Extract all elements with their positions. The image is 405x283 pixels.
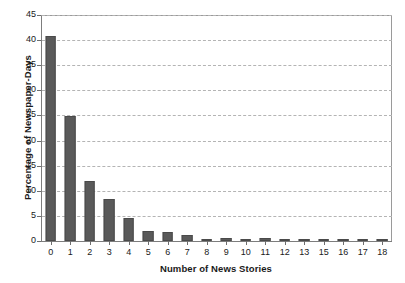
- x-tick-mark: [109, 241, 110, 245]
- y-tick-label-text: 20: [14, 135, 36, 145]
- x-tick-label: 4: [119, 247, 139, 257]
- bar: [143, 231, 154, 241]
- y-tick-label: 35: [14, 59, 36, 71]
- x-axis-line: [41, 241, 392, 242]
- x-tick-mark: [246, 241, 247, 245]
- bar-slot: [41, 15, 61, 241]
- x-tick-label: 2: [80, 247, 100, 257]
- bar-slot: [178, 15, 198, 241]
- x-tick-mark: [324, 241, 325, 245]
- bar-slot: [158, 15, 178, 241]
- bar-slot: [100, 15, 120, 241]
- y-tick-label: 45: [14, 9, 36, 21]
- x-tick-label: 8: [197, 247, 217, 257]
- x-tick-mark: [168, 241, 169, 245]
- x-tick-label: 18: [373, 247, 393, 257]
- x-tick-mark: [70, 241, 71, 245]
- x-tick-mark: [304, 241, 305, 245]
- y-axis-title: Percentage of Newspaper-Days: [22, 13, 33, 243]
- bar: [84, 181, 95, 241]
- x-tick-mark: [363, 241, 364, 245]
- bar-slot: [139, 15, 159, 241]
- bar: [65, 116, 76, 241]
- x-tick-label: 13: [295, 247, 315, 257]
- x-tick-mark: [207, 241, 208, 245]
- y-tick-label-text: 45: [14, 9, 36, 19]
- y-tick-label: 40: [14, 34, 36, 46]
- x-tick-label: 17: [353, 247, 373, 257]
- y-tick-label-text: 30: [14, 84, 36, 94]
- y-tick-label-text: 15: [14, 160, 36, 170]
- x-tick-label: 1: [61, 247, 81, 257]
- bar: [45, 36, 56, 241]
- x-tick-mark: [187, 241, 188, 245]
- bars-series: [41, 15, 392, 241]
- x-tick-mark: [382, 241, 383, 245]
- bar: [104, 199, 115, 241]
- x-tick-label: 0: [41, 247, 61, 257]
- x-tick-mark: [226, 241, 227, 245]
- x-tick-label: 16: [334, 247, 354, 257]
- x-tick-mark: [265, 241, 266, 245]
- y-tick-label: 15: [14, 160, 36, 172]
- y-tick-label: 20: [14, 135, 36, 147]
- x-tick-mark: [285, 241, 286, 245]
- bar-slot: [119, 15, 139, 241]
- y-tick-mark: [37, 241, 41, 242]
- x-tick-label: 3: [100, 247, 120, 257]
- x-tick-label: 12: [275, 247, 295, 257]
- bar-slot: [80, 15, 100, 241]
- bar-slot: [334, 15, 354, 241]
- y-tick-label-text: 10: [14, 185, 36, 195]
- bar-slot: [256, 15, 276, 241]
- x-tick-label: 5: [139, 247, 159, 257]
- y-tick-label: 30: [14, 84, 36, 96]
- x-axis-title: Number of News Stories: [40, 263, 392, 274]
- x-tick-mark: [129, 241, 130, 245]
- y-tick-label: 10: [14, 185, 36, 197]
- bar-slot: [353, 15, 373, 241]
- bar-chart: Percentage of Newspaper-Days 05101520253…: [0, 0, 405, 283]
- bar-slot: [373, 15, 393, 241]
- x-tick-mark: [51, 241, 52, 245]
- bar-slot: [295, 15, 315, 241]
- bar-slot: [217, 15, 237, 241]
- bar-slot: [236, 15, 256, 241]
- y-tick-label-text: 0: [14, 235, 36, 245]
- y-tick-label-text: 5: [14, 210, 36, 220]
- x-tick-label: 15: [314, 247, 334, 257]
- x-tick-mark: [148, 241, 149, 245]
- x-tick-label: 6: [158, 247, 178, 257]
- bar: [123, 218, 134, 241]
- bar-slot: [197, 15, 217, 241]
- y-tick-label: 25: [14, 109, 36, 121]
- x-tick-mark: [343, 241, 344, 245]
- x-tick-label: 7: [178, 247, 198, 257]
- bar: [162, 232, 173, 241]
- y-tick-label-text: 40: [14, 34, 36, 44]
- y-tick-label: 5: [14, 210, 36, 222]
- x-tick-label: 10: [236, 247, 256, 257]
- x-tick-mark: [90, 241, 91, 245]
- bar-slot: [314, 15, 334, 241]
- bar-slot: [275, 15, 295, 241]
- y-tick-label: 0: [14, 235, 36, 247]
- x-tick-label: 9: [217, 247, 237, 257]
- y-tick-label-text: 25: [14, 109, 36, 119]
- y-tick-label-text: 35: [14, 59, 36, 69]
- bar-slot: [61, 15, 81, 241]
- x-tick-label: 11: [256, 247, 276, 257]
